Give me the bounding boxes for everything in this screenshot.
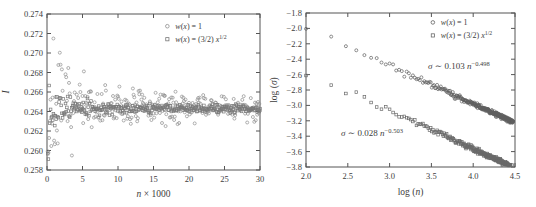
series-circle [46, 37, 261, 157]
data-point [62, 98, 65, 101]
data-point [48, 137, 51, 140]
data-point [154, 91, 157, 94]
data-point [224, 98, 227, 101]
data-point [388, 62, 391, 65]
x-tick-label: 30 [256, 174, 265, 184]
y-tick-label: 0.260 [24, 146, 43, 156]
data-point [101, 119, 104, 122]
legend-label: w(x) = (3/2) x1/2 [175, 34, 226, 44]
data-point [82, 122, 85, 125]
data-point [370, 56, 373, 59]
y-tick-label: 0.274 [24, 9, 44, 19]
data-point [395, 113, 398, 116]
data-point [140, 98, 143, 101]
data-point [64, 102, 67, 105]
data-point [232, 97, 235, 100]
data-point [68, 81, 71, 84]
data-point [69, 96, 72, 99]
data-point [55, 102, 58, 105]
data-point [158, 112, 161, 115]
data-point [93, 101, 96, 104]
data-point [70, 126, 73, 129]
data-point [398, 116, 401, 119]
data-point [66, 120, 69, 123]
fit-annotation: σ ∼ 0.103 n−0.498 [428, 60, 490, 71]
x-tick-label: 2.5 [342, 171, 353, 181]
data-point [173, 119, 176, 122]
data-point [437, 133, 440, 136]
y-tick-label: −2.0 [287, 23, 302, 33]
legend-marker-circle [431, 21, 435, 25]
y-tick-label: −3.0 [287, 100, 302, 110]
data-point [395, 69, 398, 72]
series-square [46, 84, 261, 160]
y-tick-label: 0.258 [24, 165, 43, 175]
data-point [50, 145, 53, 148]
x-tick-label: 25 [220, 174, 229, 184]
data-point [153, 116, 156, 119]
x-tick-label: 4.5 [510, 171, 521, 181]
data-point [70, 154, 73, 157]
y-tick-label: −2.8 [287, 85, 302, 95]
x-axis-label: log (n) [398, 187, 424, 198]
data-point [60, 104, 63, 107]
data-point [436, 83, 439, 86]
data-point [158, 97, 161, 100]
convergence-plot: 0510152025300.2580.2600.2620.2640.2660.2… [0, 0, 268, 207]
y-tick-label: −1.8 [287, 8, 302, 18]
data-point [344, 45, 347, 48]
left-chart-panel: 0510152025300.2580.2600.2620.2640.2660.2… [0, 0, 268, 207]
data-point [156, 101, 159, 104]
data-point [233, 117, 236, 120]
data-point [136, 117, 139, 120]
data-point [122, 119, 125, 122]
x-tick-label: 2.0 [301, 171, 312, 181]
data-point [66, 95, 69, 98]
data-point [375, 106, 378, 109]
x-tick-label: 0 [45, 174, 49, 184]
data-point [164, 125, 167, 128]
y-axis-label: I [1, 90, 11, 95]
data-point [150, 119, 153, 122]
data-point [61, 89, 64, 92]
data-point [330, 35, 333, 38]
data-point [105, 112, 108, 115]
data-point [407, 72, 410, 75]
data-point [90, 126, 93, 129]
series-circle [305, 27, 515, 124]
data-point [120, 100, 123, 103]
data-point [96, 93, 99, 96]
y-tick-label: 0.270 [24, 48, 43, 58]
data-point [355, 49, 358, 52]
data-point [385, 105, 388, 108]
data-point [64, 73, 67, 76]
y-tick-label: 0.272 [24, 29, 43, 39]
data-point [136, 120, 139, 123]
error-scaling-plot: 2.02.53.03.54.04.5−1.8−2.0−2.2−2.4−2.6−2… [268, 0, 536, 207]
data-point [202, 94, 205, 97]
data-point [375, 57, 378, 60]
data-point [129, 122, 132, 125]
data-point [48, 84, 51, 87]
x-tick-label: 20 [185, 174, 194, 184]
data-point [87, 118, 90, 121]
y-tick-label: −3.8 [287, 162, 302, 172]
y-tick-label: 0.266 [24, 87, 43, 97]
y-tick-label: −3.2 [287, 116, 302, 126]
data-point [131, 87, 134, 90]
data-point [241, 98, 244, 101]
y-tick-label: −2.6 [287, 70, 302, 80]
figure: 0510152025300.2580.2600.2620.2640.2660.2… [0, 0, 536, 207]
data-point [143, 96, 146, 99]
data-point [54, 124, 57, 127]
legend-marker-square [431, 34, 434, 37]
data-point [188, 101, 191, 104]
legend-label: w(x) = 1 [175, 22, 202, 31]
data-point [251, 116, 254, 119]
data-point [65, 76, 68, 79]
y-tick-label: −2.4 [287, 54, 303, 64]
data-point [100, 93, 103, 96]
fit-annotation: σ ∼ 0.028 n−0.503 [341, 127, 403, 138]
data-point [330, 84, 333, 87]
data-point [420, 76, 423, 79]
